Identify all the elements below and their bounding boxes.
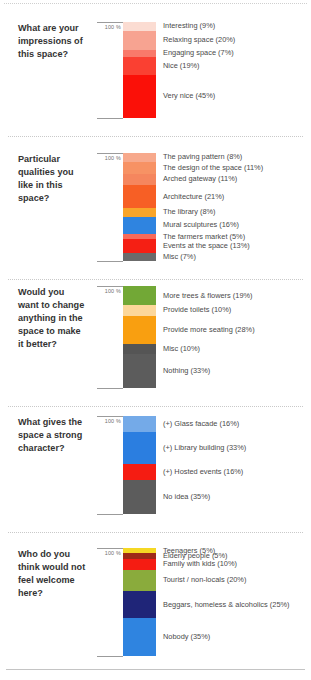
bar-segment[interactable] <box>123 618 156 656</box>
bottom-divider <box>6 669 305 670</box>
segment-label: Misc (10%) <box>163 345 200 353</box>
section-divider <box>8 406 303 407</box>
segment-label: Interesting (9%) <box>163 22 215 30</box>
chart-plot: 100 %(+) Glass facade (16%)(+) Library b… <box>90 416 311 514</box>
segment-label: Tourist / non-locals (20%) <box>163 576 246 584</box>
bar-segment[interactable] <box>123 344 156 354</box>
segment-label: (+) Hosted events (16%) <box>163 468 243 476</box>
survey-results-sheet: What are your impressions of this space?… <box>0 0 311 680</box>
bar-segment[interactable] <box>123 174 156 186</box>
segment-label: Provide toilets (10%) <box>163 306 231 314</box>
top-divider <box>4 3 307 4</box>
segment-label: (+) Library building (33%) <box>163 444 246 452</box>
stacked-bar <box>123 153 156 261</box>
bar-segment[interactable] <box>123 591 156 618</box>
bar-segment[interactable] <box>123 480 156 514</box>
chart-plot: 100 %More trees & flowers (19%)Provide t… <box>90 286 311 388</box>
chart-question: What are your impressions of this space? <box>0 22 90 61</box>
bar-segment[interactable] <box>123 464 156 480</box>
segment-label-list: The paving pattern (8%)The design of the… <box>163 153 311 261</box>
bar-segment[interactable] <box>123 432 156 464</box>
stacked-bar <box>123 416 156 514</box>
bar-segment[interactable] <box>123 570 156 592</box>
bar-segment[interactable] <box>123 208 156 217</box>
chart-question: Who do you think would not feel welcome … <box>0 548 90 600</box>
chart-axis: 100 % <box>90 153 123 261</box>
segment-label: Beggars, homeless & alcoholics (25%) <box>163 601 290 609</box>
bar-segment[interactable] <box>123 185 156 208</box>
segment-label: Family with kids (10%) <box>163 560 237 568</box>
chart-block: What gives the space a strong character?… <box>0 416 311 514</box>
chart-plot: 100 %The paving pattern (8%)The design o… <box>90 153 311 261</box>
bar-segment[interactable] <box>123 153 156 162</box>
segment-label: (+) Glass facade (16%) <box>163 420 239 428</box>
segment-label-list: (+) Glass facade (16%)(+) Library buildi… <box>163 416 311 514</box>
bar-segment[interactable] <box>123 416 156 432</box>
section-divider <box>8 136 303 137</box>
axis-bottom-tick <box>97 514 123 515</box>
chart-block: Particular qualities you like in this sp… <box>0 153 311 261</box>
segment-label-list: More trees & flowers (19%)Provide toilet… <box>163 286 311 388</box>
section-divider <box>8 279 303 280</box>
chart-block: Would you want to change anything in the… <box>0 286 311 388</box>
segment-label: Architecture (21%) <box>163 193 224 201</box>
section-divider <box>8 532 303 533</box>
segment-label: Relaxing space (20%) <box>163 36 235 44</box>
segment-label: Very nice (45%) <box>163 92 215 100</box>
segment-label: The paving pattern (8%) <box>163 153 242 161</box>
segment-label: Engaging space (7%) <box>163 49 234 57</box>
chart-question: Would you want to change anything in the… <box>0 286 90 351</box>
segment-label: Mural sculptures (16%) <box>163 221 239 229</box>
bar-segment[interactable] <box>123 217 156 234</box>
segment-label: Provide more seating (28%) <box>163 326 255 334</box>
bar-segment[interactable] <box>123 354 156 388</box>
bar-segment[interactable] <box>123 31 156 50</box>
segment-label: Misc (7%) <box>163 253 196 261</box>
bar-segment[interactable] <box>123 305 156 315</box>
segment-label: The design of the space (11%) <box>163 164 263 172</box>
bar-segment[interactable] <box>123 239 156 253</box>
stacked-bar <box>123 22 156 118</box>
axis-max-label: 100 % <box>105 288 121 294</box>
bar-segment[interactable] <box>123 286 156 305</box>
axis-max-label: 100 % <box>105 550 121 556</box>
axis-max-label: 100 % <box>105 418 121 424</box>
segment-label: Nobody (35%) <box>163 633 210 641</box>
segment-label: Arched gateway (11%) <box>163 175 237 183</box>
chart-plot: 100 %Teenagers (5%)Elderly people (5%)Fa… <box>90 548 311 656</box>
chart-axis: 100 % <box>90 548 123 656</box>
chart-question: What gives the space a strong character? <box>0 416 90 455</box>
chart-question: Particular qualities you like in this sp… <box>0 153 90 205</box>
chart-block: What are your impressions of this space?… <box>0 22 311 118</box>
bar-segment[interactable] <box>123 559 156 570</box>
stacked-bar <box>123 548 156 656</box>
segment-label: The farmers market (5%) <box>163 233 245 241</box>
chart-axis: 100 % <box>90 22 123 118</box>
axis-bottom-tick <box>97 261 123 262</box>
chart-axis: 100 % <box>90 416 123 514</box>
segment-label: Events at the space (13%) <box>163 242 250 250</box>
axis-bottom-tick <box>97 656 123 657</box>
segment-label: No idea (35%) <box>163 493 210 501</box>
bar-segment[interactable] <box>123 162 156 174</box>
segment-label-list: Interesting (9%)Relaxing space (20%)Enga… <box>163 22 311 118</box>
bar-segment[interactable] <box>123 316 156 345</box>
segment-label: Nice (19%) <box>163 62 200 70</box>
bar-segment[interactable] <box>123 22 156 31</box>
axis-max-label: 100 % <box>105 155 121 161</box>
stacked-bar <box>123 286 156 388</box>
bar-segment[interactable] <box>123 75 156 118</box>
chart-block: Who do you think would not feel welcome … <box>0 548 311 656</box>
chart-axis: 100 % <box>90 286 123 388</box>
segment-label: More trees & flowers (19%) <box>163 292 253 300</box>
axis-max-label: 100 % <box>105 24 121 30</box>
chart-plot: 100 %Interesting (9%)Relaxing space (20%… <box>90 22 311 118</box>
axis-bottom-tick <box>97 388 123 389</box>
segment-label: The library (8%) <box>163 208 216 216</box>
segment-label: Nothing (33%) <box>163 367 210 375</box>
bar-segment[interactable] <box>123 253 156 261</box>
bar-segment[interactable] <box>123 50 156 57</box>
axis-bottom-tick <box>97 118 123 119</box>
segment-label-list: Teenagers (5%)Elderly people (5%)Family … <box>163 548 311 656</box>
bar-segment[interactable] <box>123 57 156 75</box>
